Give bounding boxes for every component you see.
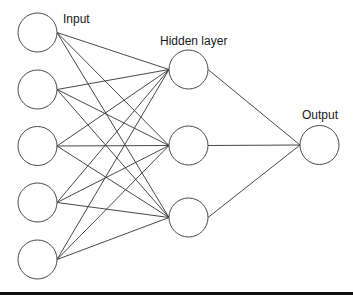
connection-in1-h1 bbox=[57, 33, 169, 70]
output-layer-label: Output bbox=[302, 108, 339, 122]
connection-in3-h1 bbox=[57, 70, 169, 147]
connection-h2-out1 bbox=[208, 145, 300, 146]
hidden-node-h3 bbox=[169, 198, 208, 237]
input-node-in3 bbox=[18, 127, 57, 166]
connection-in2-h3 bbox=[57, 90, 169, 218]
input-layer-label: Input bbox=[63, 12, 90, 26]
output-node-out1 bbox=[300, 126, 339, 165]
hidden-node-h1 bbox=[169, 50, 208, 89]
input-node-in5 bbox=[18, 240, 57, 279]
input-node-in2 bbox=[18, 70, 57, 109]
connection-in1-h3 bbox=[57, 33, 169, 218]
input-node-in4 bbox=[18, 183, 57, 222]
input-node-in1 bbox=[18, 13, 57, 52]
connection-in5-h3 bbox=[57, 218, 169, 260]
hidden-node-h2 bbox=[169, 126, 208, 165]
connection-h3-out1 bbox=[208, 145, 300, 218]
neural-network-diagram: Input Hidden layer Output bbox=[0, 0, 353, 295]
connection-in5-h2 bbox=[57, 146, 169, 260]
connection-in3-h2 bbox=[57, 146, 169, 147]
hidden-layer-label: Hidden layer bbox=[160, 34, 227, 48]
connection-h1-out1 bbox=[208, 70, 300, 146]
connection-in3-h3 bbox=[57, 146, 169, 218]
connection-in2-h1 bbox=[57, 70, 169, 90]
connection-in4-h3 bbox=[57, 203, 169, 218]
